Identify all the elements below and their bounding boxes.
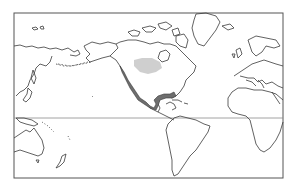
scandinavia-coastline [248,36,280,56]
south-america-coastline [166,116,210,176]
siberia-coastline [14,45,80,56]
central-america-coastline [158,102,176,120]
new-guinea [16,118,38,126]
kamchatka-coastline [16,56,52,96]
arctic-archipelago [128,22,180,36]
world-map [0,0,299,186]
europe-coastline [234,60,283,88]
mediterranean-coast [246,80,264,88]
tasmania [36,160,39,163]
africa-coastline [228,88,283,152]
map-frame [14,13,283,178]
caribbean-islands [172,100,188,104]
new-zealand [56,154,66,168]
iceland [222,24,234,30]
map-canvas [0,0,299,186]
baffin-island [176,34,188,48]
north-america-coastline [110,40,196,112]
australia-coastline [14,128,44,156]
arctic-islands-left [32,26,44,30]
alaska-coastline [84,42,118,62]
british-isles [232,48,242,58]
hudson-bay [158,50,170,62]
greenland-coastline [192,13,220,46]
light-shaded-region [134,58,162,74]
